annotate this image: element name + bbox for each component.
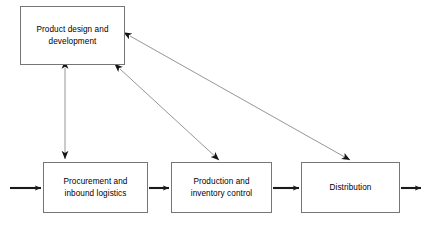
node-product-design-label: Product design and development — [32, 24, 112, 47]
edge-product-design-distribution — [130, 36, 350, 160]
node-product-design[interactable]: Product design and development — [20, 6, 125, 65]
node-distribution-label: Distribution — [326, 182, 376, 194]
edge-product-design-production — [120, 69, 219, 160]
node-production[interactable]: Production and inventory control — [171, 162, 272, 213]
node-production-label: Production and inventory control — [187, 176, 256, 199]
node-procurement-label: Procurement and inbound logistics — [59, 176, 131, 199]
node-procurement[interactable]: Procurement and inbound logistics — [43, 162, 148, 213]
process-flow-diagram: Product design and development Procureme… — [0, 0, 447, 233]
node-distribution[interactable]: Distribution — [301, 162, 400, 213]
